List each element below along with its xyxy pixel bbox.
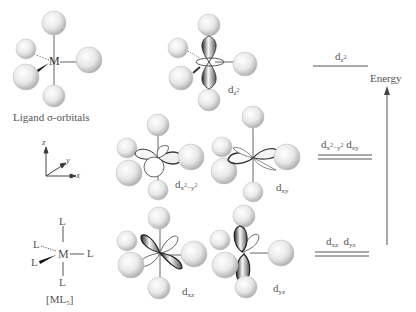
label-dyz: dyz	[273, 282, 285, 296]
ligand-sphere-right	[76, 47, 102, 73]
energy-label-dx2y2-dxy: dx2−y2 dxy	[321, 138, 359, 152]
ligand-sphere-bottom	[43, 85, 65, 107]
ligand-sphere-back	[16, 39, 36, 59]
coordinate-axes	[44, 147, 76, 178]
axis-y-label: y	[66, 155, 70, 165]
energy-label-dz2: dz2	[335, 50, 347, 64]
axis-x-label: x	[76, 170, 80, 180]
ml5-ligand-front: L	[31, 256, 38, 268]
ml5-ligand-right: L	[87, 247, 94, 259]
label-dxy: dxy	[276, 181, 289, 195]
label-dz2: dz2	[228, 83, 240, 97]
ligand-caption: Ligand σ-orbitals	[13, 111, 90, 123]
ligand-sphere-front	[13, 64, 39, 90]
ml5-ligand-bottom: L	[59, 276, 66, 288]
ml5-ligand-back: L	[33, 238, 40, 250]
energy-arrow-head	[384, 86, 390, 95]
ml5-formula: [ML5]	[46, 293, 73, 307]
energy-axis-label: Energy	[370, 72, 402, 84]
ligand-sphere-top	[42, 11, 66, 35]
energy-level-diagram	[313, 66, 390, 256]
energy-label-dxz-dyz: dxz dyz	[326, 235, 356, 249]
metal-label: M	[49, 54, 60, 69]
axis-z-label: z	[42, 137, 46, 147]
label-dxz: dxz	[182, 285, 194, 299]
ml5-metal: M	[58, 247, 69, 262]
dz2-orbital-model	[168, 14, 257, 111]
diagram-canvas	[0, 0, 416, 312]
label-dx2-y2: dx2−y2	[175, 178, 197, 192]
ml5-ligand-top: L	[59, 215, 66, 227]
